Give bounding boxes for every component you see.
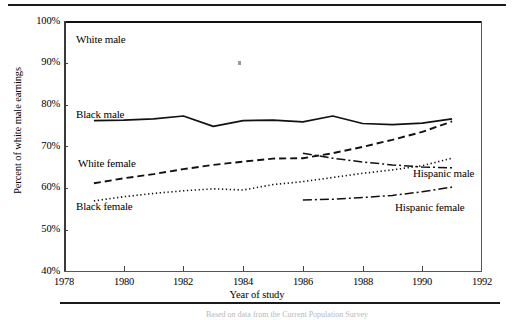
series-line-black-female [94, 158, 452, 201]
series-lines-group [64, 21, 482, 272]
series-line-hispanic-female [303, 187, 452, 200]
plot-frame-top-white-male-reference-line [64, 21, 482, 23]
y-tick-label-60: 60% [16, 182, 60, 193]
y-tick-label-40: 40% [16, 266, 60, 277]
x-axis-title: Year of study [0, 289, 514, 300]
series-label-black-female: Black female [76, 200, 133, 212]
x-tick-label-1984: 1984 [213, 276, 273, 287]
x-tick-label-1986: 1986 [273, 276, 333, 287]
figure-caption: Based on data from the Current Populatio… [60, 310, 514, 319]
plot-frame-bottom [64, 271, 482, 272]
plot-frame-right [481, 21, 482, 272]
image-speck-artifact [238, 61, 241, 65]
x-tick-label-1990: 1990 [392, 276, 452, 287]
plot-frame-left [64, 21, 66, 272]
series-label-hispanic-male: Hispanic male [413, 167, 474, 179]
x-tick-label-1978: 1978 [34, 276, 94, 287]
series-line-black-male [94, 116, 452, 126]
y-tick-label-70: 70% [16, 141, 60, 152]
series-label-white-male: White male [76, 33, 126, 45]
x-tick-label-1992: 1992 [452, 276, 512, 287]
series-label-white-female: White female [78, 157, 136, 169]
y-tick-label-90: 90% [16, 57, 60, 68]
figure-container: Percent of white male earnings 100% 90% … [0, 0, 514, 320]
y-axis-tick-labels: 100% 90% 80% 70% 60% 50% 40% [12, 0, 60, 320]
series-label-hispanic-female: Hispanic female [395, 201, 465, 213]
x-tick-label-1982: 1982 [153, 276, 213, 287]
x-tick-label-1980: 1980 [94, 276, 154, 287]
y-tick-label-100: 100% [16, 16, 60, 27]
y-tick-label-80: 80% [16, 99, 60, 110]
top-horizontal-rule [8, 4, 506, 6]
bottom-horizontal-rule [60, 302, 500, 304]
x-tick-label-1988: 1988 [333, 276, 393, 287]
series-label-black-male: Black male [76, 108, 124, 120]
y-tick-label-50: 50% [16, 224, 60, 235]
series-line-white-female [94, 121, 452, 183]
plot-area [64, 21, 482, 272]
